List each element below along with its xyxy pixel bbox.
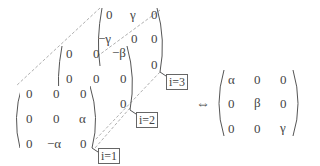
m3-r1c1: 0 [106, 8, 113, 21]
r-r2c3: 0 [280, 97, 287, 110]
m3-r2c2: 0 [131, 32, 138, 45]
r-r3c1: 0 [228, 122, 235, 135]
r-r3c3: γ [280, 121, 286, 134]
m1-r3c3: 0 [80, 137, 87, 150]
m3-r2c1: −γ [98, 32, 111, 45]
equivalence-arrow-icon: ⇔ [196, 96, 210, 112]
m2-r3c3: 0 [120, 97, 127, 110]
m1-r3c2: −α [47, 137, 61, 150]
m1-r1c2: 0 [53, 87, 60, 100]
m1-r1c3: 0 [80, 87, 87, 100]
m1-r2c1: 0 [26, 112, 33, 125]
m1-r1c1: 0 [26, 87, 33, 100]
label-i1: i=1 [98, 148, 120, 164]
r-r2c2: β [254, 96, 261, 109]
r-r1c3: 0 [280, 73, 287, 86]
r-r1c2: 0 [254, 73, 261, 86]
m2-r1c3: −β [112, 46, 126, 59]
r-r2c1: 0 [228, 97, 235, 110]
m3-r1c3: 0 [151, 8, 158, 21]
m2-r2c1: 0 [66, 72, 73, 85]
label-i3: i=3 [166, 74, 188, 90]
m1-r2c2: 0 [53, 112, 60, 125]
m1-r3c1: 0 [26, 137, 33, 150]
r-r3c2: 0 [254, 122, 261, 135]
m2-r2c2: 0 [93, 72, 100, 85]
m3-r2c3: 0 [151, 32, 158, 45]
m1-r2c3: α [79, 112, 86, 125]
r-r1c1: α [228, 73, 235, 86]
m2-r1c1: 0 [66, 47, 73, 60]
m2-r2c3: 0 [120, 72, 127, 85]
m3-r3c3: 0 [151, 58, 158, 71]
m2-r1c2: 0 [93, 47, 100, 60]
label-i2: i=2 [136, 112, 158, 128]
m3-r1c2: γ [130, 8, 136, 21]
